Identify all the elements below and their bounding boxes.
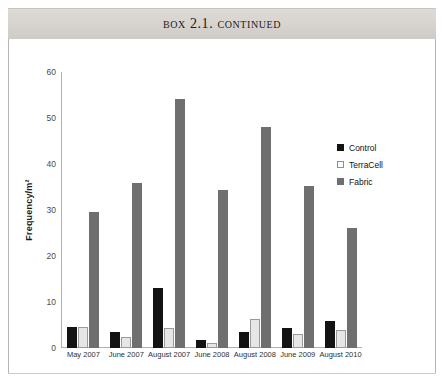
x-tick-label: August 2010 [319,350,362,366]
legend-item-label: TerraCell [349,160,383,170]
bar-fabric [347,228,357,348]
box-title: Box 2.1. Continued [8,9,436,39]
x-axis-labels: May 2007June 2007August 2007June 2008Aug… [62,350,362,366]
legend-item[interactable]: Fabric [337,173,423,190]
bar-fabric [218,190,228,348]
legend-item-label: Fabric [349,177,373,187]
bar-fabric [304,186,314,348]
chart-plot-area: 0102030405060 [62,72,362,348]
box-rule-left [8,8,9,374]
y-tick-label: 20 [47,251,56,261]
bar-fabric [132,183,142,348]
y-tick-label: 0 [51,343,56,353]
bar-fabric [261,127,271,348]
bar-terracell [336,330,346,348]
y-axis-label: Frequency/m² [22,72,36,348]
bar-group [148,72,191,348]
chart-legend: ControlTerraCellFabric [337,139,423,190]
bar-control [239,332,249,348]
x-tick-label: June 2007 [105,350,148,366]
square-gray-icon [337,178,344,185]
bar-control [196,340,206,348]
y-tick-label: 60 [47,67,56,77]
y-tick-label: 50 [47,113,56,123]
y-tick-label: 10 [47,297,56,307]
bar-control [325,321,335,348]
box-header-band: Box 2.1. Continued [8,8,436,39]
x-tick-label: June 2009 [276,350,319,366]
bar-terracell [250,319,260,348]
page-root: Box 2.1. Continued Frequency/m² 01020304… [0,0,444,382]
bar-group [276,72,319,348]
square-outline-icon [337,161,344,168]
bar-group [62,72,105,348]
square-filled-icon [337,144,344,151]
x-tick-label: June 2008 [191,350,234,366]
x-tick-label: May 2007 [62,350,105,366]
bar-control [153,288,163,348]
bar-control [67,327,77,348]
legend-item[interactable]: Control [337,139,423,156]
legend-item[interactable]: TerraCell [337,156,423,173]
bar-control [110,332,120,348]
x-tick-label: August 2008 [233,350,276,366]
bar-fabric [89,212,99,348]
bar-group [233,72,276,348]
x-tick-label: August 2007 [148,350,191,366]
bar-group [105,72,148,348]
bar-terracell [207,343,217,348]
bar-groups [62,72,362,348]
y-tick-label: 40 [47,159,56,169]
box-rule-bottom [8,373,436,374]
legend-item-label: Control [349,143,376,153]
y-tick-label: 30 [47,205,56,215]
bar-terracell [164,328,174,348]
bar-fabric [175,99,185,348]
bar-terracell [121,337,131,349]
bar-terracell [293,334,303,348]
bar-terracell [78,327,88,348]
box-rule-right [435,8,436,374]
bar-group [191,72,234,348]
bar-group [319,72,362,348]
bar-control [282,328,292,348]
